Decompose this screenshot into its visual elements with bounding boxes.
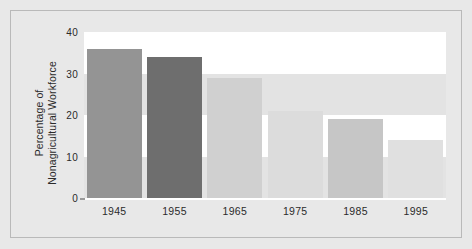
- bar: [388, 140, 443, 198]
- bar: [87, 49, 142, 198]
- x-axis-tick-label: 1995: [404, 205, 429, 217]
- y-axis-tick-label: 0: [52, 193, 78, 204]
- x-axis-tick-label: 1955: [162, 205, 187, 217]
- plot-area: [84, 32, 446, 198]
- y-axis-zero-tick: [80, 198, 85, 200]
- x-axis-line: [84, 198, 446, 200]
- y-axis-tick-label: 30: [52, 68, 78, 79]
- bar-chart-figure: Percentage of Nonagricultural Workforce …: [0, 0, 472, 249]
- bar: [328, 119, 383, 198]
- x-axis-tick-labels: 194519551965197519851995: [84, 205, 446, 225]
- y-axis-tick-label: 40: [52, 27, 78, 38]
- x-axis-tick-label: 1985: [343, 205, 368, 217]
- x-axis-tick-label: 1975: [283, 205, 308, 217]
- x-axis-tick-label: 1945: [102, 205, 127, 217]
- y-axis-tick-label: 20: [52, 110, 78, 121]
- bar: [147, 57, 202, 198]
- y-axis-tick-label: 10: [52, 151, 78, 162]
- bar: [207, 78, 262, 198]
- x-axis-tick-label: 1965: [223, 205, 248, 217]
- y-axis-tick-labels: 010203040: [52, 0, 78, 249]
- bar: [268, 111, 323, 198]
